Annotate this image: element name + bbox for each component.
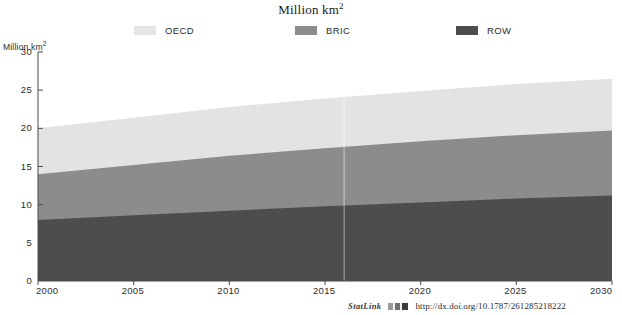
statlink-barcode-icon: [388, 303, 408, 310]
statlink-footer: StatLink http://dx.doi.org/10.1787/26128…: [348, 300, 566, 312]
plot-area: [0, 0, 622, 315]
statlink-label: StatLink: [348, 301, 381, 311]
chart-container: Million km2 OECD BRIC ROW Million km2 05…: [0, 0, 622, 315]
statlink-url[interactable]: http://dx.doi.org/10.1787/261285218222: [415, 301, 565, 311]
